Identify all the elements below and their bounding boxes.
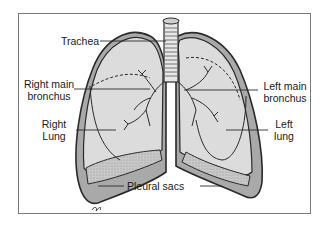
label-right-lung-line1: Right	[34, 118, 74, 130]
label-left-main-bronchus-line1: Left main	[258, 80, 312, 92]
label-right-lung: Right Lung	[34, 118, 74, 142]
artist-signature-icon	[92, 207, 101, 211]
label-trachea: Trachea	[61, 35, 99, 47]
label-right-main-bronchus-line1: Right main	[23, 78, 75, 90]
left-lung	[178, 38, 252, 186]
label-left-main-bronchus: Left main bronchus	[258, 80, 312, 104]
label-pleural-sacs: Pleural sacs	[127, 180, 184, 192]
label-left-lung: Left lung	[266, 118, 302, 142]
label-right-main-bronchus: Right main bronchus	[23, 78, 75, 102]
label-right-main-bronchus-line2: bronchus	[23, 90, 75, 102]
label-left-main-bronchus-line2: bronchus	[258, 92, 312, 104]
trachea	[163, 18, 179, 82]
lungs-illustration	[0, 0, 329, 231]
label-left-lung-line1: Left	[266, 118, 302, 130]
label-right-lung-line2: Lung	[34, 130, 74, 142]
label-left-lung-line2: lung	[266, 130, 302, 142]
right-lung	[84, 38, 163, 184]
